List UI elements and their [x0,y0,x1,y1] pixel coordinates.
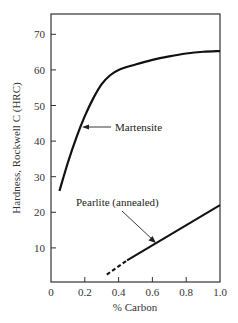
x-tick-label: 1.0 [213,286,227,298]
x-tick-label: 0.8 [179,286,193,298]
y-tick-label: 40 [34,135,46,147]
x-tick-label: 0.6 [146,286,160,298]
x-tick-label: 0 [48,286,54,298]
plot-frame [51,14,220,282]
y-tick-label: 30 [34,171,46,183]
y-tick-label: 70 [34,28,46,40]
x-tick-label: 0.2 [78,286,92,298]
y-tick-label: 10 [34,242,46,254]
y-tick-label: 60 [34,64,46,76]
martensite-label: Martensite [115,121,162,133]
y-axis-label: Hardness, Rockwell C (HRC) [10,82,23,214]
arrowhead-icon [82,125,89,130]
pearlite-arrow [122,211,153,240]
y-axis: 10203040506070 [34,28,56,254]
chart: 10203040506070 00.20.40.60.81.0 Martensi… [0,0,238,323]
x-axis-label: % Carbon [113,301,158,313]
pearlite-label: Pearlite (annealed) [76,196,159,209]
pearlite-solid-segment [127,205,220,260]
x-tick-label: 0.4 [112,286,126,298]
pearlite-dashed-segment [107,260,127,274]
y-tick-label: 20 [34,206,46,218]
x-axis: 00.20.40.60.81.0 [48,277,227,298]
y-tick-label: 50 [34,100,46,112]
